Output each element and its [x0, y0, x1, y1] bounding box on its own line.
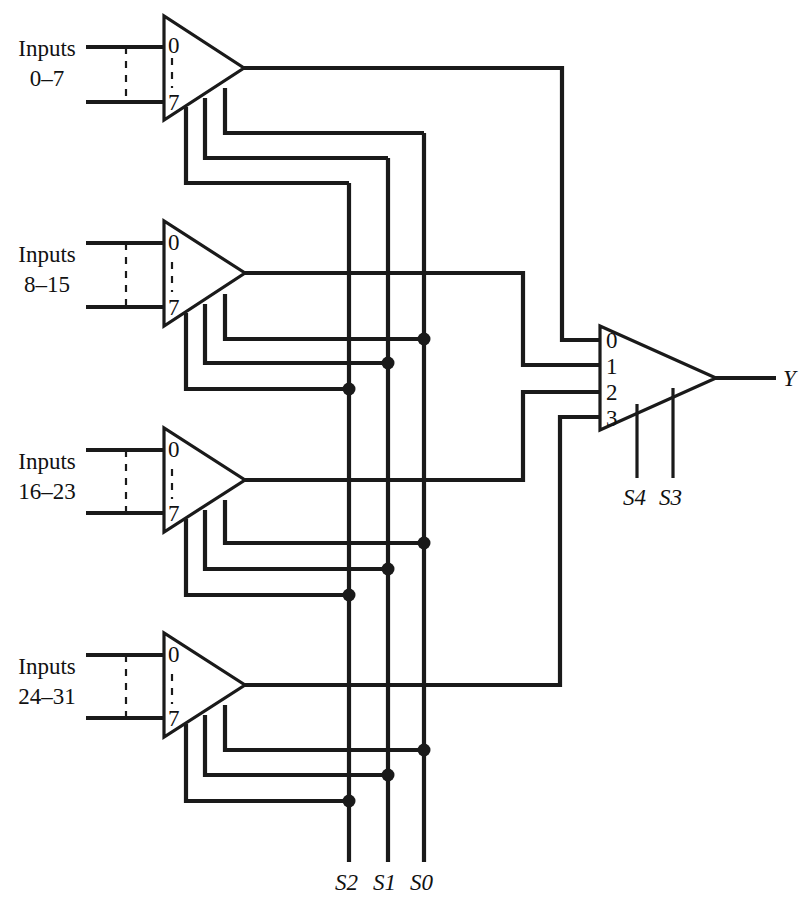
input-group-4-label-line1: Inputs	[18, 654, 76, 679]
junction-dot	[382, 769, 395, 782]
junction-dot	[418, 537, 431, 550]
mux1-output-wire	[243, 68, 600, 340]
junction-dot	[418, 744, 431, 757]
mux3-port-bottom-label: 7	[168, 501, 180, 526]
mux3-select-wire-s1	[205, 510, 388, 569]
mux-block-2	[86, 221, 600, 389]
select-bus	[349, 133, 424, 862]
select-label-s4: S4	[623, 485, 646, 510]
mux4-select-wire-s2	[186, 724, 349, 801]
mux2-select-wire-s0	[225, 294, 424, 339]
figure-canvas: Inputs 0–7 Inputs 8–15 Inputs 16–23 Inpu…	[0, 0, 810, 914]
junction-dot	[418, 333, 431, 346]
mux1-port-top-label: 0	[168, 33, 180, 58]
junction-dot	[343, 589, 356, 602]
mux4-select-wire-s0	[225, 705, 424, 750]
mux-port-numbers: 0 7 0 7 0 7 0 7	[168, 33, 180, 731]
input-group-1-label-line1: Inputs	[18, 36, 76, 61]
mux3-select-wire-s0	[225, 500, 424, 543]
output-mux-block	[600, 326, 776, 478]
input-group-3-label-line1: Inputs	[18, 449, 76, 474]
input-group-3-label-line2: 16–23	[18, 479, 76, 504]
input-group-4-label-line2: 24–31	[18, 684, 76, 709]
output-mux-port-1-label: 1	[606, 354, 618, 379]
mux2-select-wire-s1	[205, 304, 388, 363]
mux1-select-wire-s2	[186, 107, 349, 183]
output-mux-port-3-label: 3	[606, 406, 618, 431]
mux1-select-wire-s0	[225, 88, 424, 133]
mux2-select-wire-s2	[186, 313, 349, 389]
output-mux-port-numbers: 0 1 2 3	[606, 328, 618, 431]
mux2-port-bottom-label: 7	[168, 295, 180, 320]
mux3-port-top-label: 0	[168, 437, 180, 462]
mux3-select-wire-s2	[186, 519, 349, 595]
circuit-diagram: Inputs 0–7 Inputs 8–15 Inputs 16–23 Inpu…	[0, 0, 810, 914]
mux1-port-bottom-label: 7	[168, 90, 180, 115]
mux4-port-bottom-label: 7	[168, 706, 180, 731]
junction-dot	[382, 357, 395, 370]
mux-block-3	[86, 392, 600, 595]
mux4-port-top-label: 0	[168, 642, 180, 667]
mux2-port-top-label: 0	[168, 230, 180, 255]
select-bus-labels: S2 S1 S0	[335, 870, 434, 895]
junction-dot	[382, 563, 395, 576]
input-group-2-label-line1: Inputs	[18, 242, 76, 267]
select-label-s1: S1	[373, 870, 396, 895]
junction-dot	[343, 383, 356, 396]
select-label-s2: S2	[335, 870, 358, 895]
select-label-s0: S0	[410, 870, 434, 895]
mux4-select-wire-s1	[205, 715, 388, 775]
group-labels: Inputs 0–7 Inputs 8–15 Inputs 16–23 Inpu…	[18, 36, 76, 709]
output-mux-port-2-label: 2	[606, 380, 618, 405]
select-label-s3: S3	[659, 485, 682, 510]
output-mux-select-labels: S4 S3	[623, 485, 682, 510]
junction-dot	[343, 795, 356, 808]
input-group-2-label-line2: 8–15	[24, 272, 70, 297]
output-label-y: Y	[783, 366, 798, 391]
output-mux-port-0-label: 0	[606, 328, 618, 353]
mux1-select-wire-s1	[205, 98, 388, 158]
input-group-1-label-line2: 0–7	[30, 66, 65, 91]
